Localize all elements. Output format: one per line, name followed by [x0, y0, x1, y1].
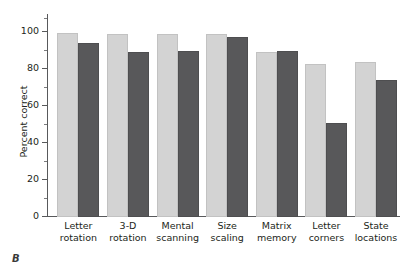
- y-tick-mark: [42, 31, 47, 32]
- y-tick-mark: [42, 179, 47, 180]
- y-tick-label: 0: [33, 210, 39, 221]
- y-tick-mark: [44, 87, 48, 88]
- bar-group: [206, 14, 248, 217]
- bar-light: [355, 62, 376, 217]
- bar-series-container: [48, 14, 399, 217]
- figure-panel-b: B Percent correct 020406080100 Letterrot…: [0, 0, 412, 279]
- y-tick-label: 60: [27, 99, 39, 110]
- x-category-label-line1: State: [339, 220, 412, 232]
- bar-light: [256, 52, 277, 217]
- bar-group: [305, 14, 347, 217]
- y-tick-label: 100: [21, 25, 39, 36]
- y-tick-mark: [44, 198, 48, 199]
- bar-group: [157, 14, 199, 217]
- bar-light: [57, 33, 78, 217]
- plot-area: 020406080100: [47, 14, 400, 217]
- bar-light: [157, 34, 178, 217]
- bar-dark: [227, 37, 248, 217]
- y-tick-mark: [44, 18, 48, 19]
- y-tick-mark: [42, 216, 47, 217]
- bar-group: [355, 14, 397, 217]
- bar-dark: [128, 52, 149, 217]
- bar-light: [107, 34, 128, 217]
- bar-dark: [376, 80, 397, 217]
- y-tick-label: 40: [27, 136, 39, 147]
- bar-group: [256, 14, 298, 217]
- bar-dark: [78, 43, 99, 217]
- bar-dark: [178, 51, 199, 217]
- y-tick-label: 80: [27, 62, 39, 73]
- y-tick-mark: [44, 50, 48, 51]
- y-tick-mark: [42, 105, 47, 106]
- x-axis-category-labels: Letterrotation3-DrotationMentalscanningS…: [47, 220, 400, 260]
- panel-label: B: [12, 253, 20, 264]
- y-tick-mark: [42, 68, 47, 69]
- x-category-label-line2: locations: [339, 232, 412, 244]
- x-category-label: Statelocations: [339, 220, 412, 243]
- y-tick-mark: [42, 142, 47, 143]
- y-tick-mark: [44, 124, 48, 125]
- y-tick-mark: [44, 161, 48, 162]
- bar-group: [107, 14, 149, 217]
- bar-dark: [326, 123, 347, 217]
- bar-dark: [277, 51, 298, 218]
- bar-group: [57, 14, 99, 217]
- bar-light: [206, 34, 227, 217]
- bar-light: [305, 64, 326, 217]
- y-tick-label: 20: [27, 173, 39, 184]
- y-axis-title: Percent correct: [18, 62, 29, 182]
